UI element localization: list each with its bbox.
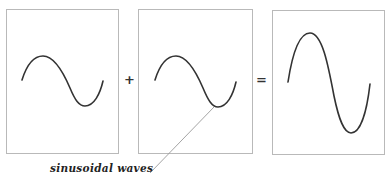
equals-operator: =	[256, 73, 267, 86]
diagram-canvas	[0, 0, 388, 180]
panel-wave-sum	[273, 11, 385, 155]
panel-frame	[273, 11, 385, 155]
wave-addition-diagram: + = sinusoidal waves	[0, 0, 388, 180]
annotation-label: sinusoidal waves	[50, 162, 153, 174]
panel-wave-b	[139, 10, 253, 154]
plus-operator: +	[124, 73, 135, 86]
panel-frame	[7, 10, 119, 154]
panel-wave-a	[7, 10, 119, 154]
